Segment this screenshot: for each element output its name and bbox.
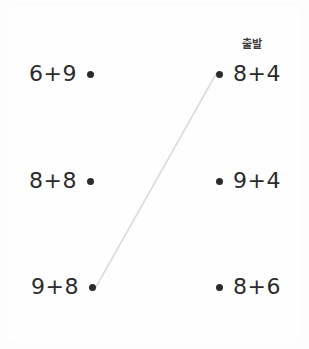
left-connector-dot-2[interactable] [87,178,94,185]
left-expression-2: 8+8 [29,170,77,192]
right-expression-3: 8+6 [233,276,281,298]
left-connector-dot-3[interactable] [89,284,96,291]
right-expression-1: 8+4 [233,63,281,85]
right-connector-dot-1[interactable] [216,71,223,78]
matching-activity-canvas: 6+9 8+8 9+8 8+4 9+4 8+6 출발 [0,0,309,349]
start-label: 출발 [242,35,262,51]
right-connector-dot-3[interactable] [216,284,223,291]
right-expression-2: 9+4 [233,170,281,192]
left-connector-dot-1[interactable] [87,71,94,78]
left-expression-1: 6+9 [29,63,77,85]
right-connector-dot-2[interactable] [216,178,223,185]
left-expression-3: 9+8 [31,276,79,298]
